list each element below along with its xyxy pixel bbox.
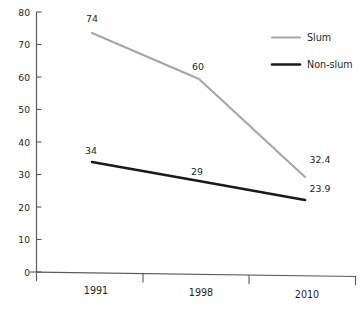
y-tick-label-50: 50: [18, 104, 30, 115]
chart-canvas: 80 70 60 50 40 30 20 10 0 1991 1998 2010: [0, 0, 364, 310]
legend-item-slum[interactable]: Slum: [272, 32, 331, 43]
data-labels-slum: 74 60 32.4: [86, 13, 330, 165]
line-chart: 80 70 60 50 40 30 20 10 0 1991 1998 2010: [0, 0, 364, 310]
data-label-non-slum-1991: 34: [85, 145, 97, 156]
x-axis-line: [36, 272, 356, 276]
y-axis-ticks: [30, 12, 42, 272]
data-label-slum-2010: 32.4: [310, 154, 331, 165]
y-tick-label-60: 60: [18, 72, 30, 83]
data-labels-non-slum: 34 29 23.9: [85, 145, 330, 194]
data-label-non-slum-2010: 23.9: [310, 183, 331, 194]
data-label-slum-1998: 60: [192, 61, 204, 72]
y-tick-label-70: 70: [18, 39, 30, 50]
data-label-slum-1991: 74: [86, 13, 98, 24]
legend-label-slum: Slum: [307, 32, 331, 43]
x-tick-label-2010: 2010: [295, 289, 319, 300]
y-tick-label-30: 30: [18, 169, 30, 180]
x-tick-label-1998: 1998: [189, 287, 213, 298]
y-tick-label-40: 40: [18, 137, 30, 148]
x-axis-tick-labels: 1991 1998 2010: [84, 285, 319, 300]
y-tick-label-0: 0: [24, 267, 30, 278]
chart-legend: Slum Non-slum: [272, 32, 353, 70]
data-label-non-slum-1998: 29: [191, 166, 203, 177]
legend-item-non-slum[interactable]: Non-slum: [272, 59, 353, 70]
y-tick-label-20: 20: [18, 202, 30, 213]
y-axis-tick-labels: 80 70 60 50 40 30 20 10 0: [18, 7, 30, 278]
y-tick-label-80: 80: [18, 7, 30, 18]
x-tick-label-1991: 1991: [84, 285, 108, 296]
legend-label-non-slum: Non-slum: [307, 59, 353, 70]
series-line-slum: [92, 33, 305, 177]
y-tick-label-10: 10: [18, 234, 30, 245]
